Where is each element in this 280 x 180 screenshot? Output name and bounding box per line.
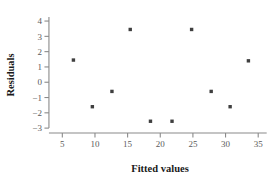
x-axis-tick-label: 25 [188, 139, 198, 149]
y-axis-tick-label: 4 [37, 16, 42, 26]
x-axis-tick-label: 35 [254, 139, 264, 149]
data-point [228, 105, 231, 108]
data-point [209, 90, 212, 93]
x-axis-tick-label: 15 [123, 139, 133, 149]
data-point [110, 90, 113, 93]
y-axis-tick-label: −1 [32, 93, 42, 103]
data-point [190, 28, 193, 31]
scatter-plot: −3−2−101234 5101520253035 Fitted values … [0, 0, 280, 180]
data-point [91, 105, 94, 108]
y-axis-tick-label: 2 [37, 47, 42, 57]
y-axis-tick-label: −2 [32, 108, 42, 118]
data-point [247, 59, 250, 62]
y-axis-tick-label: 3 [37, 32, 42, 42]
plot-background [0, 0, 280, 180]
data-point [129, 28, 132, 31]
x-axis-tick-label: 5 [60, 139, 65, 149]
x-axis-title: Fitted values [131, 163, 188, 174]
data-point [170, 120, 173, 123]
x-axis-tick-label: 30 [221, 139, 231, 149]
y-axis-tick-label: 1 [37, 62, 42, 72]
chart-canvas: −3−2−101234 5101520253035 Fitted values … [0, 0, 280, 180]
y-axis-title: Residuals [5, 53, 16, 96]
x-axis-tick-label: 10 [90, 139, 100, 149]
data-point [149, 120, 152, 123]
y-axis-tick-label: −3 [32, 123, 42, 133]
y-axis-tick-label: 0 [37, 77, 42, 87]
data-point [72, 58, 75, 61]
x-axis-tick-label: 20 [156, 139, 166, 149]
